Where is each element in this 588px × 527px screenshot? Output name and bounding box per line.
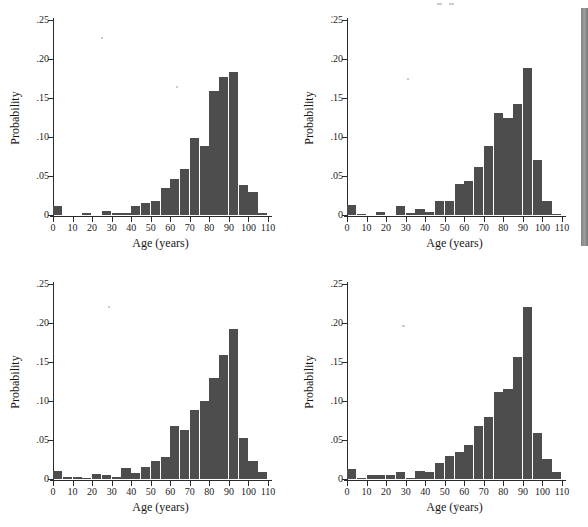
- plot-area: 0.05.10.15.20.25: [347, 20, 562, 215]
- histogram-bar: [523, 68, 532, 215]
- x-axis-tick-label: 90: [224, 487, 234, 497]
- histogram-bar: [445, 456, 454, 479]
- histogram-bar: [455, 184, 464, 215]
- x-axis-tick-label: 30: [401, 487, 411, 497]
- histogram-bar: [542, 459, 551, 479]
- histogram-bar: [131, 206, 140, 215]
- x-axis-tick-label: 50: [146, 223, 156, 233]
- y-axis-tick-label: .10: [331, 396, 344, 406]
- four-panel-histogram-figure: 0.05.10.15.20.25010203040506070809010011…: [0, 0, 588, 527]
- y-axis-title: Probability: [8, 20, 22, 215]
- y-axis-title-text: Probability: [8, 355, 22, 408]
- y-axis-title: Probability: [302, 284, 316, 479]
- x-axis-tick-label: 60: [165, 223, 175, 233]
- x-axis-tick-label: 100: [535, 223, 550, 233]
- y-axis-tick-label: .15: [331, 357, 344, 367]
- page-edge-scan-artifact: [581, 8, 588, 246]
- histogram-bar: [180, 430, 189, 479]
- histogram-bar: [415, 471, 424, 479]
- x-axis-tick-label: 80: [204, 487, 214, 497]
- histogram-bar: [190, 410, 199, 479]
- histogram-bar: [425, 472, 434, 479]
- histogram-bar: [425, 212, 434, 215]
- y-axis-tick-label: .25: [37, 279, 50, 289]
- histogram-bar: [533, 160, 542, 215]
- y-axis-tick-label: .20: [37, 318, 50, 328]
- histogram-bar: [455, 452, 464, 479]
- y-axis-title-text: Probability: [8, 91, 22, 144]
- x-axis-tick-label: 110: [555, 487, 570, 497]
- histogram-bar: [552, 214, 561, 215]
- x-axis-tick-label: 40: [126, 487, 136, 497]
- histogram-bar: [219, 355, 228, 479]
- histogram-bar: [445, 201, 454, 215]
- histogram-bar: [357, 214, 366, 215]
- y-axis-tick-label: .20: [331, 318, 344, 328]
- histogram-bar: [542, 201, 551, 215]
- x-axis-tick-label: 10: [362, 487, 372, 497]
- bar-series: [53, 284, 268, 479]
- histogram-bar: [209, 378, 218, 479]
- histogram-bar: [170, 426, 179, 479]
- histogram-bar: [141, 467, 150, 479]
- y-axis-tick-label: .20: [331, 54, 344, 64]
- x-axis-tick-label: 10: [68, 223, 78, 233]
- x-axis-tick-label: 0: [345, 223, 350, 233]
- x-axis-tick-label: 80: [498, 223, 508, 233]
- y-axis-title-text: Probability: [302, 355, 316, 408]
- histogram-bar: [141, 203, 150, 215]
- histogram-panel-2: 0.05.10.15.20.25010203040506070809010011…: [294, 0, 588, 263]
- plot-area: 0.05.10.15.20.25: [347, 284, 562, 479]
- scan-speck: [456, 504, 459, 507]
- histogram-bar: [170, 179, 179, 215]
- histogram-bar: [161, 457, 170, 479]
- histogram-bar: [248, 461, 257, 479]
- histogram-bar: [484, 417, 493, 479]
- x-axis-tick-label: 20: [381, 223, 391, 233]
- histogram-bar: [523, 307, 532, 479]
- y-axis-tick-label: .05: [37, 435, 50, 445]
- histogram-bar: [131, 473, 140, 479]
- histogram-bar: [53, 206, 62, 215]
- x-axis-tick-label: 10: [68, 487, 78, 497]
- histogram-bar: [258, 213, 267, 215]
- histogram-bar: [102, 211, 111, 215]
- x-axis-tick-label: 30: [401, 223, 411, 233]
- x-axis-tick-label: 0: [345, 487, 350, 497]
- histogram-bar: [484, 146, 493, 215]
- histogram-bar: [92, 474, 101, 479]
- y-axis-tick-label: .15: [37, 357, 50, 367]
- histogram-bar: [552, 472, 561, 479]
- x-axis-tick-label: 110: [555, 223, 570, 233]
- y-axis-tick-label: .20: [37, 54, 50, 64]
- x-axis-tick-label: 50: [440, 487, 450, 497]
- y-axis-tick-label: .10: [37, 132, 50, 142]
- x-axis-tick-label: 60: [165, 487, 175, 497]
- histogram-bar: [464, 181, 473, 215]
- x-axis-tick-label: 70: [479, 223, 489, 233]
- histogram-bar: [503, 118, 512, 216]
- x-axis-tick-label: 70: [479, 487, 489, 497]
- y-axis-tick-label: 0: [338, 210, 343, 220]
- histogram-bar: [396, 206, 405, 215]
- x-axis-title: Age (years): [53, 236, 268, 250]
- x-axis-tick-label: 20: [87, 223, 97, 233]
- bar-series: [347, 284, 562, 479]
- x-axis-tick-label: 70: [185, 487, 195, 497]
- histogram-bar: [82, 478, 91, 479]
- y-axis-title: Probability: [302, 20, 316, 215]
- bar-series: [347, 20, 562, 215]
- histogram-panel-4: 0.05.10.15.20.25010203040506070809010011…: [294, 264, 588, 527]
- histogram-bar: [82, 213, 91, 215]
- y-axis-tick-label: .10: [331, 132, 344, 142]
- histogram-bar: [406, 478, 415, 479]
- histogram-bar: [474, 167, 483, 215]
- y-axis-title: Probability: [8, 284, 22, 479]
- y-axis-tick-label: .05: [331, 435, 344, 445]
- histogram-bar: [63, 477, 72, 479]
- histogram-bar: [376, 475, 385, 479]
- y-axis-tick-label: .10: [37, 396, 50, 406]
- histogram-bar: [347, 205, 356, 215]
- histogram-bar: [513, 357, 522, 479]
- histogram-bar: [376, 212, 385, 215]
